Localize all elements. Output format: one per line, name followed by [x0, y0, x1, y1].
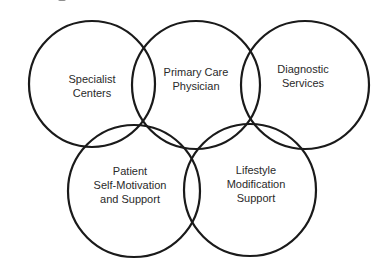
label-patient-self-motivation: Patient Self-Motivation and Support	[94, 164, 167, 206]
label-specialist-centers: Specialist Centers	[68, 72, 115, 100]
venn-diagram	[0, 0, 389, 272]
label-line: Specialist	[68, 72, 115, 86]
label-line: Diagnostic	[277, 62, 328, 76]
label-line: and Support	[94, 192, 167, 206]
label-line: Services	[277, 76, 328, 90]
label-line: Physician	[164, 79, 229, 93]
label-lifestyle-modification: Lifestyle Modification Support	[227, 163, 286, 205]
label-line: Lifestyle	[227, 163, 286, 177]
label-line: Primary Care	[164, 65, 229, 79]
label-line: Modification	[227, 177, 286, 191]
label-line: Self-Motivation	[94, 178, 167, 192]
label-line: Support	[227, 191, 286, 205]
label-line: Centers	[68, 86, 115, 100]
label-line: Patient	[94, 164, 167, 178]
label-diagnostic-services: Diagnostic Services	[277, 62, 328, 90]
label-primary-care-physician: Primary Care Physician	[164, 65, 229, 93]
